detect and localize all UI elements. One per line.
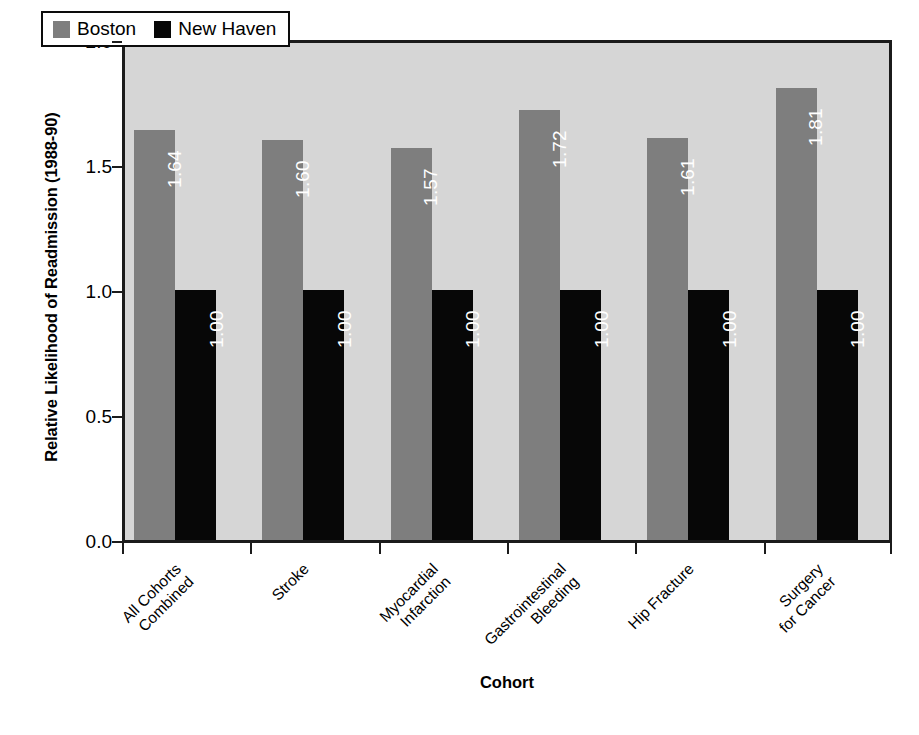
chart-legend: BostonNew Haven — [41, 11, 290, 47]
x-axis-tick-mark — [250, 543, 252, 554]
bar-value-label: 1.00 — [462, 310, 484, 348]
bar-value-label: 1.64 — [164, 150, 186, 188]
y-axis-tick-mark — [112, 166, 122, 168]
y-axis-tick-label: 0.0 — [52, 531, 112, 553]
legend-entry: Boston — [53, 18, 136, 40]
x-axis-category-label-line: for Cancer — [685, 573, 839, 727]
plot-inner: 1.641.001.601.001.571.001.721.001.611.00… — [125, 43, 889, 540]
bar-boston: 1.60 — [262, 140, 303, 540]
y-axis-tick-mark — [112, 41, 122, 43]
bar-boston: 1.57 — [391, 148, 432, 541]
chart-figure: Relative Likelihood of Readmission (1988… — [0, 0, 919, 735]
legend-entry: New Haven — [154, 18, 276, 40]
x-axis-category-label-line: Hip Fracture — [625, 560, 697, 632]
bar-value-label: 1.81 — [805, 108, 827, 146]
bar-new-haven: 1.00 — [688, 290, 729, 540]
x-axis-tick-mark — [122, 543, 124, 554]
bar-new-haven: 1.00 — [432, 290, 473, 540]
x-axis-tick-mark — [764, 543, 766, 554]
y-axis-tick-labels: 0.00.51.01.52.0 — [40, 0, 112, 735]
bar-boston: 1.61 — [647, 138, 688, 541]
x-axis-tick-mark — [635, 543, 637, 554]
bar-new-haven: 1.00 — [560, 290, 601, 540]
bar-boston: 1.64 — [134, 130, 175, 540]
y-axis-tick-mark — [112, 291, 122, 293]
y-axis-tick-mark — [112, 541, 122, 543]
y-axis-tick-label: 1.0 — [52, 281, 112, 303]
x-axis-tick-mark — [507, 543, 509, 554]
legend-label: Boston — [77, 18, 136, 40]
legend-swatch-icon — [53, 21, 70, 38]
x-axis-tick-mark — [890, 543, 892, 554]
bar-boston: 1.81 — [776, 88, 817, 541]
bar-new-haven: 1.00 — [175, 290, 216, 540]
bar-value-label: 1.00 — [206, 310, 228, 348]
x-axis-tick-mark — [379, 543, 381, 554]
legend-label: New Haven — [178, 18, 276, 40]
bar-value-label: 1.00 — [591, 310, 613, 348]
bar-value-label: 1.72 — [549, 130, 571, 168]
bar-value-label: 1.57 — [420, 168, 442, 206]
y-axis-tick-label: 0.5 — [52, 406, 112, 428]
bar-value-label: 1.00 — [719, 310, 741, 348]
legend-swatch-icon — [154, 21, 171, 38]
y-axis-tick-label: 1.5 — [52, 156, 112, 178]
bar-new-haven: 1.00 — [817, 290, 858, 540]
x-axis-category-label-line: Stroke — [269, 560, 313, 604]
bar-new-haven: 1.00 — [303, 290, 344, 540]
bar-value-label: 1.60 — [292, 160, 314, 198]
bar-value-label: 1.00 — [334, 310, 356, 348]
bar-boston: 1.72 — [519, 110, 560, 540]
plot-area: 1.641.001.601.001.571.001.721.001.611.00… — [122, 40, 892, 543]
y-axis-tick-mark — [112, 416, 122, 418]
bar-value-label: 1.00 — [847, 310, 869, 348]
bar-value-label: 1.61 — [677, 158, 699, 196]
x-axis-category-label: Surgeryfor Cancer — [672, 560, 839, 727]
x-axis-title: Cohort — [122, 673, 892, 692]
